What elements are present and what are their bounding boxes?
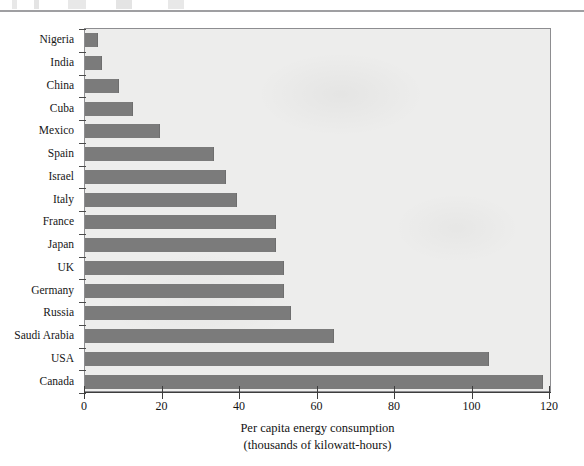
bar-row (85, 257, 284, 280)
x-axis-tick (549, 392, 550, 399)
y-axis-label-israel: Israel (48, 170, 74, 182)
bar-row (85, 97, 133, 120)
bar-germany (85, 284, 284, 298)
y-axis-label-japan: Japan (48, 238, 74, 250)
bar-row (85, 75, 119, 98)
y-axis-label-usa: USA (51, 352, 74, 364)
bar-row (85, 211, 276, 234)
x-axis-tick (162, 392, 163, 399)
y-axis-label-france: France (43, 215, 74, 227)
bar-row (85, 120, 160, 143)
y-axis-label-india: India (50, 56, 74, 68)
bar-saudi-arabia (85, 329, 334, 343)
x-axis-label-120: 120 (540, 400, 558, 413)
x-axis-label-80: 80 (388, 400, 400, 413)
bar-chart-plot-area (84, 28, 551, 392)
bar-uk (85, 261, 284, 275)
y-axis-label-italy: Italy (53, 193, 74, 205)
x-axis-label-100: 100 (463, 400, 481, 413)
y-axis-label-mexico: Mexico (39, 124, 74, 136)
x-axis-tick-inner (239, 386, 240, 392)
x-axis-tick (394, 392, 395, 399)
x-axis-label-20: 20 (156, 400, 168, 413)
y-axis-label-china: China (47, 79, 74, 91)
x-axis-tick-inner (394, 386, 395, 392)
bar-row (85, 370, 543, 393)
x-axis-title-line2: (thousands of kilowatt-hours) (84, 438, 551, 454)
chart-page: NigeriaIndiaChinaCubaMexicoSpainIsraelIt… (0, 0, 584, 466)
bar-china (85, 79, 119, 93)
bar-row (85, 143, 214, 166)
y-axis-labels: NigeriaIndiaChinaCubaMexicoSpainIsraelIt… (0, 28, 80, 392)
bar-row (85, 52, 102, 75)
y-axis-label-cuba: Cuba (50, 102, 74, 114)
bar-mexico (85, 124, 160, 138)
bar-row (85, 325, 334, 348)
x-axis-title: Per capita energy consumption (thousands… (84, 421, 551, 453)
bar-israel (85, 170, 226, 184)
y-axis-label-uk: UK (57, 261, 74, 273)
bar-row (85, 279, 284, 302)
x-axis-tick-inner (472, 386, 473, 392)
bar-france (85, 215, 276, 229)
bar-cuba (85, 102, 133, 116)
y-axis-tick (79, 29, 86, 30)
x-axis-title-line1: Per capita energy consumption (84, 421, 551, 437)
bar-india (85, 56, 102, 70)
page-header-rule (0, 10, 584, 12)
x-axis-tick (472, 392, 473, 399)
bar-row (85, 166, 226, 189)
x-axis-tick-inner (162, 386, 163, 392)
bar-nigeria (85, 33, 98, 47)
bar-row (85, 348, 489, 371)
page-header-ghost-text (8, 0, 308, 9)
y-axis-label-saudi-arabia: Saudi Arabia (14, 329, 74, 341)
y-axis-label-germany: Germany (31, 284, 74, 296)
y-axis-label-spain: Spain (48, 147, 74, 159)
bar-russia (85, 306, 291, 320)
bar-row (85, 29, 98, 52)
bar-row (85, 234, 276, 257)
bar-row (85, 302, 291, 325)
y-axis-label-canada: Canada (40, 375, 74, 387)
x-axis-tick-inner (317, 386, 318, 392)
y-axis-label-nigeria: Nigeria (40, 33, 74, 45)
bar-row (85, 188, 237, 211)
x-axis-tick (317, 392, 318, 399)
bar-usa (85, 352, 489, 366)
bar-japan (85, 238, 276, 252)
x-axis-label-0: 0 (81, 400, 87, 413)
x-axis-label-60: 60 (311, 400, 323, 413)
bar-spain (85, 147, 214, 161)
x-axis-label-40: 40 (233, 400, 245, 413)
x-axis-tick-inner (84, 386, 85, 392)
x-axis-line (84, 392, 551, 393)
bar-canada (85, 375, 543, 389)
y-axis-label-russia: Russia (43, 306, 74, 318)
x-axis-tick-inner (549, 386, 550, 392)
x-axis-tick (84, 392, 85, 399)
bar-italy (85, 193, 237, 207)
x-axis-tick (239, 392, 240, 399)
